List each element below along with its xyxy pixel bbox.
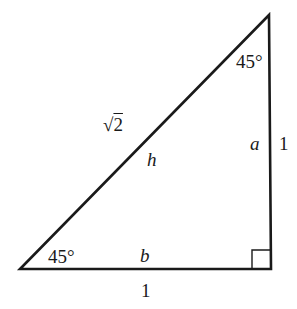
right-angle-marker — [252, 250, 271, 269]
horizontal-leg-length-label: 1 — [141, 281, 151, 300]
triangle-diagram: 45° 45° √2 h a 1 b 1 — [0, 0, 297, 309]
bottom-left-angle-label: 45° — [48, 247, 75, 266]
horizontal-leg-variable-label: b — [140, 246, 150, 265]
vertical-leg-variable-label: a — [250, 134, 260, 153]
hypotenuse-length-label: √2 — [103, 115, 123, 134]
vertical-leg-length-label: 1 — [279, 134, 289, 153]
triangle-outline — [20, 15, 271, 269]
hypotenuse-variable-label: h — [147, 150, 157, 169]
radicand: 2 — [113, 114, 123, 135]
top-angle-label: 45° — [236, 52, 263, 71]
sqrt-symbol: √ — [103, 114, 113, 135]
